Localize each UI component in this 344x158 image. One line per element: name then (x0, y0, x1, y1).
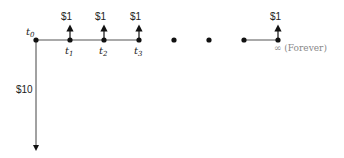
inflow-label-3: $1 (130, 11, 142, 22)
time-label-t0: t0 (26, 26, 35, 39)
ellipsis-dot-1 (171, 37, 176, 42)
time-label-t2: t2 (99, 45, 108, 58)
cash-flow-diagram: $10 $1 $1 $1 $1 t0 t1 t2 t3 ∞ (Forever) (0, 0, 344, 158)
ellipsis-dot-2 (206, 37, 211, 42)
inflow-label-2: $1 (95, 11, 107, 22)
time-label-t1: t1 (65, 45, 74, 58)
dot-t3 (136, 37, 141, 42)
forever-label: ∞ (Forever) (274, 43, 327, 53)
dot-forever (275, 37, 280, 42)
inflow-label-1: $1 (61, 11, 73, 22)
dot-t2 (101, 37, 106, 42)
dot-t1 (67, 37, 72, 42)
dot-tail-start (241, 37, 246, 42)
time-label-t3: t3 (134, 45, 143, 58)
inflow-label-forever: $1 (270, 11, 282, 22)
outflow-label: $10 (16, 84, 33, 95)
